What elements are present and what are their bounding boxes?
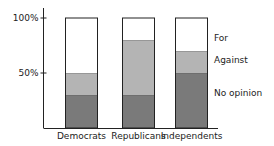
legend-label-against: Against bbox=[214, 55, 248, 65]
x-tick-label: Independents bbox=[161, 131, 223, 141]
bars bbox=[66, 18, 208, 128]
legend: No opinionAgainstFor bbox=[214, 33, 262, 98]
bar-segment-democrats-for bbox=[66, 18, 98, 73]
bar-segment-independents-no-opinion bbox=[176, 73, 208, 128]
y-tick-label: 100% bbox=[13, 13, 39, 23]
bar-segment-republicans-no-opinion bbox=[123, 95, 155, 128]
legend-label-no-opinion: No opinion bbox=[214, 88, 262, 98]
x-tick-label: Republicans bbox=[111, 131, 166, 141]
y-ticks: 50%100% bbox=[13, 13, 47, 78]
legend-label-for: For bbox=[214, 33, 228, 43]
bar-segment-republicans-against bbox=[123, 40, 155, 95]
bar-segment-independents-for bbox=[176, 18, 208, 51]
bar-segment-democrats-against bbox=[66, 73, 98, 95]
stacked-bar-chart: 50%100% DemocratsRepublicansIndependents… bbox=[0, 0, 274, 146]
y-tick-label: 50% bbox=[18, 68, 38, 78]
bar-segment-republicans-for bbox=[123, 18, 155, 40]
bar-segment-democrats-no-opinion bbox=[66, 95, 98, 128]
x-tick-label: Democrats bbox=[57, 131, 106, 141]
bar-segment-independents-against bbox=[176, 51, 208, 73]
category-labels: DemocratsRepublicansIndependents bbox=[57, 131, 223, 141]
